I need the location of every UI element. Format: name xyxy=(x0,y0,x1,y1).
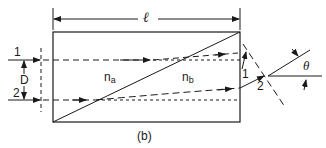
length-label: ℓ xyxy=(143,11,149,25)
medium-b-subscript: b xyxy=(189,75,194,85)
ray-2 xyxy=(8,76,264,100)
ray-2-output-label: 2 xyxy=(257,80,264,92)
figure-caption: (b) xyxy=(137,130,152,142)
angle-theta-label: θ xyxy=(303,59,309,72)
medium-b-label: nb xyxy=(182,71,194,85)
angle-construction xyxy=(268,49,322,90)
interface-diagonal xyxy=(53,32,240,122)
separation-label: D xyxy=(20,74,29,86)
medium-a-symbol: n xyxy=(104,70,111,84)
medium-a-label: na xyxy=(104,71,116,85)
ray-1-output-label: 1 xyxy=(242,68,249,80)
ray-1-input-label: 1 xyxy=(14,46,21,58)
ray-1 xyxy=(8,52,246,69)
prism-diagram xyxy=(0,0,326,148)
medium-a-subscript: a xyxy=(111,75,116,85)
medium-b-symbol: n xyxy=(182,70,189,84)
ray-2-input-label: 2 xyxy=(13,87,20,99)
